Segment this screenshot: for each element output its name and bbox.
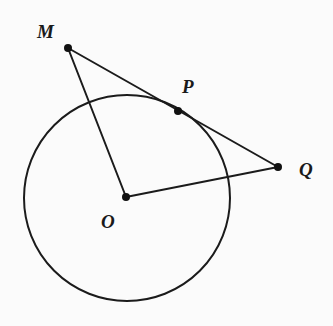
point-m: [64, 44, 72, 52]
label-m: M: [36, 21, 55, 42]
label-o: O: [101, 211, 115, 232]
segment-oq: [126, 167, 278, 197]
point-p: [174, 107, 182, 115]
segment-mo: [68, 48, 126, 197]
label-q: Q: [299, 159, 313, 180]
segment-mq-tangent: [68, 48, 278, 167]
geometry-diagram: M P Q O: [0, 0, 333, 326]
point-q: [274, 163, 282, 171]
label-p: P: [181, 76, 194, 97]
point-o: [122, 193, 130, 201]
